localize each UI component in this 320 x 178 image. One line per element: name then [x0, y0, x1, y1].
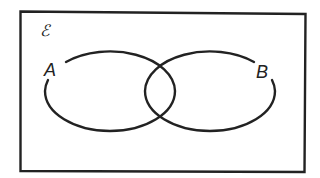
- set-b-label: B: [256, 63, 268, 81]
- universal-set-rectangle: [21, 12, 306, 173]
- universal-set-label: ℰ: [40, 23, 50, 39]
- set-a-ellipse: [45, 51, 175, 131]
- set-a-label: A: [44, 61, 56, 79]
